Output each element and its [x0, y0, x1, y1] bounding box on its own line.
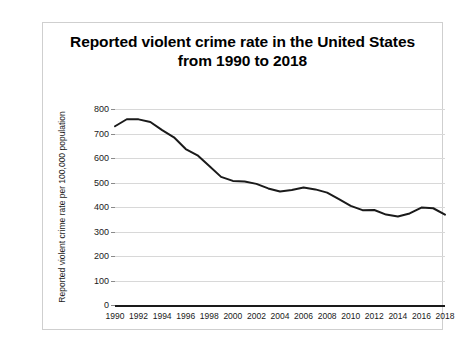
- x-tick-label: 2004: [271, 311, 290, 321]
- x-tick-label: 2010: [341, 311, 360, 321]
- y-tick-mark: [111, 305, 115, 306]
- x-tick-label: 2002: [247, 311, 266, 321]
- y-tick-label: 400: [94, 202, 109, 212]
- y-tick-label: 0: [104, 300, 109, 310]
- x-tick-label: 2012: [365, 311, 384, 321]
- chart-title-line-2: from 1990 to 2018: [43, 52, 442, 71]
- plot-area: 0100200300400500600700800 19901992199419…: [115, 109, 445, 305]
- x-tick-label: 1996: [176, 311, 195, 321]
- y-tick-label: 200: [94, 251, 109, 261]
- chart-figure: Reported violent crime rate in the Unite…: [42, 22, 443, 330]
- y-tick-label: 500: [94, 178, 109, 188]
- y-tick-label: 800: [94, 104, 109, 114]
- x-tick-label: 2000: [223, 311, 242, 321]
- x-tick-label: 1990: [106, 311, 125, 321]
- x-tick-label: 1994: [153, 311, 172, 321]
- x-tick-label: 2016: [412, 311, 431, 321]
- y-tick-label: 700: [94, 129, 109, 139]
- data-series-line: [115, 109, 445, 305]
- x-tick-label: 2006: [294, 311, 313, 321]
- x-tick-label: 1992: [129, 311, 148, 321]
- x-tick-label: 2008: [318, 311, 337, 321]
- x-tick-label: 2018: [436, 311, 455, 321]
- y-tick-label: 600: [94, 153, 109, 163]
- chart-title: Reported violent crime rate in the Unite…: [43, 33, 442, 71]
- y-axis-label: Reported violent crime rate per 100,000 …: [55, 109, 69, 305]
- x-axis-line: [115, 305, 445, 307]
- y-tick-label: 100: [94, 276, 109, 286]
- chart-title-line-1: Reported violent crime rate in the Unite…: [43, 33, 442, 52]
- x-tick-label: 2014: [388, 311, 407, 321]
- y-tick-label: 300: [94, 227, 109, 237]
- x-tick-label: 1998: [200, 311, 219, 321]
